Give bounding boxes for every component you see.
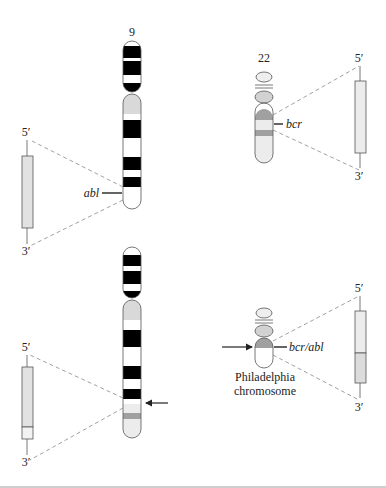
abl-gene-label: abl	[84, 186, 100, 200]
abl-derivative-gene-bar: 5′ 3′	[22, 340, 33, 469]
expansion-line	[273, 66, 359, 115]
chromosome-label: chromosome	[234, 384, 296, 398]
bcr-abl-gene-label: bcr/abl	[289, 340, 324, 354]
five-prime-label: 5′	[355, 281, 364, 295]
chromosome-22-normal: 22	[255, 51, 273, 163]
three-prime-label: 3′	[355, 169, 364, 183]
five-prime-label: 5′	[22, 125, 31, 139]
philadelphia-label: Philadelphia	[235, 370, 296, 384]
abl-gene-bar: 5′ 3′	[22, 125, 33, 258]
five-prime-label: 5′	[22, 340, 31, 354]
expansion-line	[273, 296, 359, 341]
translocation-diagram: 9 abl 5′ 3′ 22	[0, 0, 386, 488]
expansion-line	[30, 408, 123, 460]
five-prime-label: 5′	[355, 51, 364, 65]
chromosome-22-label: 22	[258, 51, 270, 65]
chromosome-9-label: 9	[129, 25, 135, 39]
bcr-abl-gene-bar: 5′ 3′	[355, 281, 366, 414]
three-prime-label: 3′	[355, 400, 364, 414]
expansion-line	[273, 130, 359, 170]
bcr-gene-bar: 5′ 3′	[355, 51, 366, 183]
expansion-line	[30, 140, 123, 187]
bcr-gene-label: bcr	[286, 117, 302, 131]
philadelphia-chromosome	[255, 308, 273, 368]
chromosome-9-normal: 9	[123, 25, 141, 209]
chromosome-9-derivative	[123, 247, 141, 438]
expansion-line	[30, 200, 123, 246]
expansion-line	[30, 355, 123, 398]
three-prime-label: 3′	[22, 244, 31, 258]
three-prime-label: 3′	[22, 455, 31, 469]
